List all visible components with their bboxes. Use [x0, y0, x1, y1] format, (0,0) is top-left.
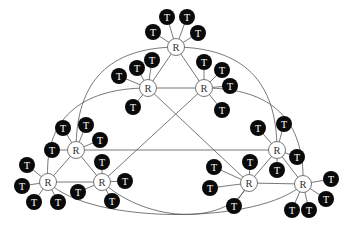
edge-r2-r8	[148, 88, 249, 183]
terminal-label: T	[97, 135, 103, 146]
terminal-node: T	[26, 194, 42, 210]
router-label: R	[98, 177, 105, 188]
terminal-label: T	[219, 105, 225, 116]
terminal-label: T	[150, 27, 156, 38]
terminal-label: T	[99, 157, 105, 168]
terminal-node: T	[117, 173, 133, 189]
terminal-node: T	[276, 116, 292, 132]
terminal-node: T	[206, 159, 222, 175]
terminal-node: T	[125, 99, 141, 115]
terminal-node: T	[70, 184, 86, 200]
terminal-label: T	[281, 119, 287, 130]
router-node-r2: R	[140, 80, 157, 97]
terminal-node: T	[226, 198, 242, 214]
router-label: R	[72, 145, 79, 156]
router-node-r6: R	[94, 174, 111, 191]
terminal-node: T	[214, 102, 230, 118]
router-label: R	[172, 42, 179, 53]
terminal-label: T	[60, 123, 66, 134]
terminal-label: T	[211, 162, 217, 173]
terminal-node: T	[92, 132, 108, 148]
terminal-label: T	[184, 12, 190, 23]
terminal-node: T	[111, 68, 127, 84]
terminal-node: T	[129, 60, 145, 76]
terminal-node: T	[14, 178, 30, 194]
terminal-node: T	[202, 180, 218, 196]
terminal-node: T	[214, 62, 230, 78]
terminal-node: T	[323, 171, 339, 187]
terminal-node: T	[242, 154, 258, 170]
terminal-label: T	[207, 183, 213, 194]
terminal-node: T	[269, 162, 285, 178]
network-diagram: RRRRRRRRR TTTTTTTTTTTTTTTTTTTTTTTTTTTTTT…	[0, 0, 348, 227]
edge-r5-r9	[48, 182, 303, 215]
router-node-r9: R	[295, 176, 312, 193]
router-label: R	[144, 83, 151, 94]
terminal-node: T	[284, 202, 300, 218]
router-node-r8: R	[241, 175, 258, 192]
terminal-label: T	[274, 165, 280, 176]
terminal-node: T	[250, 120, 266, 136]
terminal-node: T	[190, 25, 206, 41]
terminal-label: T	[122, 176, 128, 187]
terminal-label: T	[31, 197, 37, 208]
terminal-node: T	[78, 117, 94, 133]
terminal-label: T	[130, 102, 136, 113]
terminal-node: T	[144, 52, 160, 68]
router-label: R	[245, 178, 252, 189]
terminal-label: T	[219, 65, 225, 76]
terminal-label: T	[294, 152, 300, 163]
terminal-label: T	[49, 145, 55, 156]
terminal-node: T	[159, 9, 175, 25]
router-label: R	[273, 145, 280, 156]
terminal-label: T	[24, 160, 30, 171]
router-node-r4: R	[68, 142, 85, 159]
terminal-label: T	[19, 181, 25, 192]
terminal-label: T	[109, 196, 115, 207]
terminal-label: T	[289, 205, 295, 216]
terminal-label: T	[55, 197, 61, 208]
router-node-r5: R	[40, 174, 57, 191]
terminal-node: T	[55, 120, 71, 136]
terminal-label: T	[164, 12, 170, 23]
terminal-node: T	[145, 24, 161, 40]
terminal-node: T	[104, 193, 120, 209]
terminal-node: T	[196, 54, 212, 70]
router-node-r1: R	[168, 39, 185, 56]
router-label: R	[200, 83, 207, 94]
terminal-node: T	[94, 154, 110, 170]
terminal-node: T	[44, 142, 60, 158]
terminal-node: T	[19, 157, 35, 173]
terminal-label: T	[227, 81, 233, 92]
terminal-node: T	[222, 78, 238, 94]
terminal-node: T	[179, 9, 195, 25]
router-node-r7: R	[269, 142, 286, 159]
terminal-node: T	[289, 149, 305, 165]
terminal-label: T	[201, 57, 207, 68]
terminal-label: T	[323, 194, 329, 205]
edge-r3-r6	[102, 88, 204, 182]
terminal-label: T	[149, 55, 155, 66]
terminal-label: T	[255, 123, 261, 134]
router-node-r3: R	[196, 80, 213, 97]
terminal-label: T	[195, 28, 201, 39]
terminal-node: T	[318, 191, 334, 207]
terminal-label: T	[83, 120, 89, 131]
terminal-label: T	[116, 71, 122, 82]
terminal-label: T	[247, 157, 253, 168]
terminal-label: T	[134, 63, 140, 74]
terminal-node: T	[301, 202, 317, 218]
terminal-label: T	[328, 174, 334, 185]
terminal-label: T	[75, 187, 81, 198]
terminal-node: T	[50, 194, 66, 210]
router-label: R	[299, 179, 306, 190]
router-label: R	[44, 177, 51, 188]
terminal-label: T	[231, 201, 237, 212]
terminal-label: T	[306, 205, 312, 216]
